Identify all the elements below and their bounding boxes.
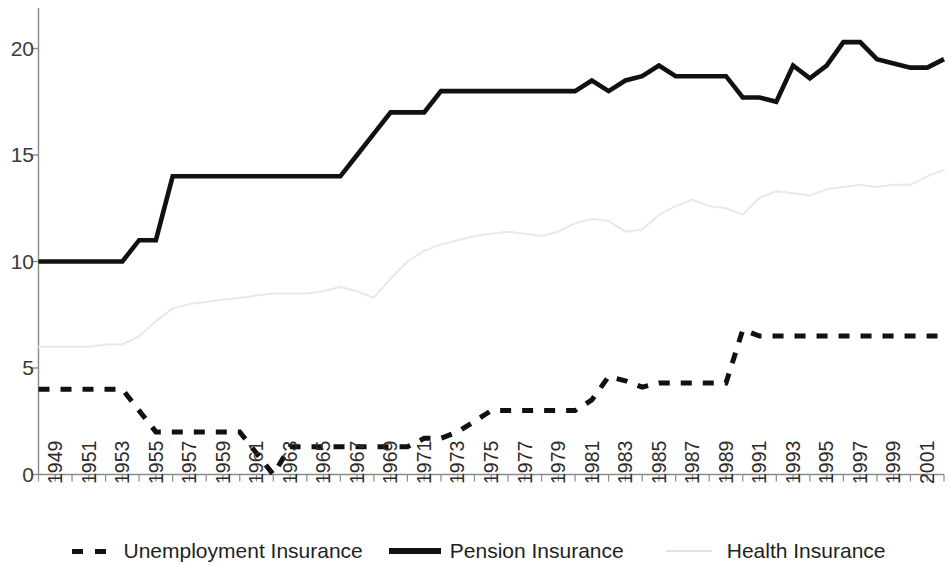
- x-axis-tick-label: 1965: [314, 441, 334, 484]
- x-axis-tick-label: 1983: [616, 441, 636, 484]
- x-axis-tick-label: 1989: [717, 441, 737, 484]
- y-axis-tick-label: 15: [0, 144, 34, 165]
- x-axis-tick-label: 1985: [650, 441, 670, 484]
- x-axis-tick-label: 1953: [113, 441, 133, 484]
- y-axis-tick-label: 20: [0, 38, 34, 59]
- x-axis-tick-label: 1977: [516, 441, 536, 484]
- x-axis-tick-label: 1981: [583, 441, 603, 484]
- y-axis-tick-label: 0: [0, 464, 34, 485]
- solid-line-swatch-icon: [383, 540, 443, 562]
- legend-item-health-insurance[interactable]: Health Insurance: [658, 539, 886, 563]
- x-axis-tick-label: 1993: [784, 441, 804, 484]
- series-line-pension-insurance: [39, 42, 945, 261]
- x-axis-tick-label: 1969: [381, 441, 401, 484]
- x-axis-tick-label: 1955: [147, 441, 167, 484]
- y-axis-tick-label: 10: [0, 251, 34, 272]
- x-axis-tick-label: 1995: [817, 441, 837, 484]
- x-axis-tick-label: 1979: [549, 441, 569, 484]
- x-axis-tick-label: 1999: [884, 441, 904, 484]
- x-axis-tick-label: 1961: [247, 441, 267, 484]
- legend-label-pension-insurance: Pension Insurance: [443, 539, 624, 563]
- y-axis-tick-label: 5: [0, 357, 34, 378]
- line-chart: 05101520 1949195119531955195719591961196…: [0, 0, 950, 565]
- x-axis-tick-label: 1997: [851, 441, 871, 484]
- x-axis-tick-label: 1991: [750, 441, 770, 484]
- x-axis-tick-label: 1957: [180, 441, 200, 484]
- x-axis-tick-label: 1975: [482, 441, 502, 484]
- legend-item-unemployment-insurance[interactable]: Unemployment Insurance: [64, 539, 362, 563]
- x-axis-tick-label: 1971: [415, 441, 435, 484]
- x-axis-tick-label: 1951: [80, 441, 100, 484]
- plot-area: [0, 0, 950, 565]
- dashed-line-swatch-icon: [64, 540, 116, 562]
- series-line-health-insurance: [39, 170, 945, 347]
- x-axis-tick-label: 1959: [214, 441, 234, 484]
- x-axis-tick-label: 2001: [918, 441, 938, 484]
- legend-item-pension-insurance[interactable]: Pension Insurance: [383, 539, 624, 563]
- x-axis-tick-label: 1967: [348, 441, 368, 484]
- legend-label-health-insurance: Health Insurance: [720, 539, 886, 563]
- x-axis-tick-label: 1987: [683, 441, 703, 484]
- chart-legend: Unemployment Insurance Pension Insurance…: [0, 536, 950, 565]
- x-axis-tick-label: 1973: [448, 441, 468, 484]
- legend-label-unemployment-insurance: Unemployment Insurance: [116, 539, 362, 563]
- x-axis-tick-label: 1963: [281, 441, 301, 484]
- light-line-swatch-icon: [658, 540, 720, 562]
- x-axis-tick-label: 1949: [46, 441, 66, 484]
